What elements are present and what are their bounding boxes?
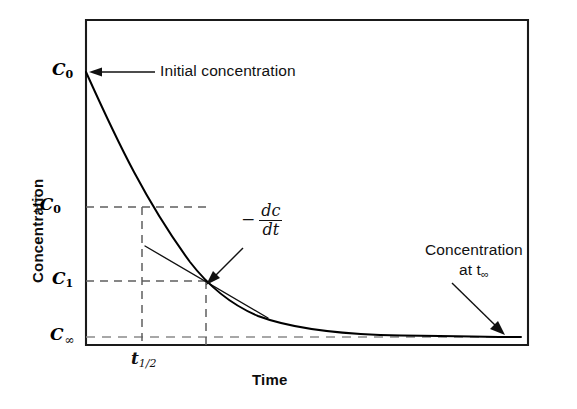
y-tick-c-infinity-symbol: C xyxy=(50,324,64,344)
concentration-decay-figure: Concentration Time C0 1 2 C0 C1 C∞ t1/2 … xyxy=(0,0,577,409)
x-tick-t-half-symbol: t xyxy=(131,348,139,368)
x-tick-t-half: t1/2 xyxy=(131,350,157,367)
x-axis-title: Time xyxy=(252,372,288,387)
rate-minus-sign: − xyxy=(241,211,255,228)
annotation-initial-concentration: Initial concentration xyxy=(160,63,296,79)
y-tick-half-c0-subscript: 0 xyxy=(53,203,61,216)
y-tick-half-c0-symbol: C xyxy=(40,194,54,214)
y-tick-c0: C0 xyxy=(52,61,73,78)
annotation-tinf-line2: at t∞ xyxy=(425,260,523,280)
rate-numerator: dc xyxy=(259,202,282,220)
y-tick-c-infinity: C∞ xyxy=(50,326,74,343)
half-fraction-numerator: 1 xyxy=(33,195,39,204)
arrow-t-infinity xyxy=(452,283,505,335)
x-tick-t-half-subscript: 1/2 xyxy=(139,357,157,370)
decay-curve xyxy=(86,72,521,337)
y-tick-c0-symbol: C xyxy=(52,59,66,79)
annotation-concentration-at-t-infinity: Concentration at t∞ xyxy=(425,240,523,280)
plot-frame xyxy=(86,20,528,345)
rate-denominator: dt xyxy=(259,220,282,239)
y-tick-c1-subscript: 1 xyxy=(66,277,74,290)
rate-fraction: dc dt xyxy=(259,202,282,239)
annotation-rate-derivative: − dc dt xyxy=(241,202,282,239)
arrow-initial-concentration xyxy=(89,68,155,77)
arrow-rate xyxy=(206,248,243,285)
y-tick-c1: C1 xyxy=(52,270,73,287)
y-tick-half-c0: 1 2 C0 xyxy=(33,196,61,215)
half-fraction: 1 2 xyxy=(33,195,39,213)
annotation-tinf-subscript: ∞ xyxy=(481,268,489,280)
annotation-tinf-at: at t xyxy=(459,261,481,278)
y-tick-c1-symbol: C xyxy=(52,268,66,288)
y-tick-c0-subscript: 0 xyxy=(66,68,74,81)
y-tick-c-infinity-subscript: ∞ xyxy=(65,333,75,347)
half-fraction-denominator: 2 xyxy=(33,204,39,214)
annotation-tinf-line1: Concentration xyxy=(425,240,523,260)
